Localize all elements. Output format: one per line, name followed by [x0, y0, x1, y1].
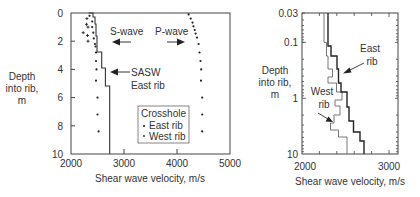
sasw-label-line1: SASW	[131, 67, 161, 78]
left-ytick-0: 0	[57, 8, 63, 19]
left-xtick-4000: 4000	[166, 158, 189, 169]
left-xlabel: Shear wave velocity, m/s	[95, 173, 205, 184]
sasw-label-line2: East rib	[131, 80, 165, 91]
left-ylabel-line2: into rib,	[6, 83, 39, 94]
left-ylabel-line3: m	[18, 95, 26, 106]
east-rib-line	[328, 13, 364, 154]
right-ylabel-line1: Depth	[262, 65, 289, 76]
p-wave-arrow-icon	[167, 39, 185, 46]
s-wave-label: S-wave	[110, 26, 144, 37]
west-rib-arrow-icon	[318, 113, 333, 122]
right-xtick-2000: 2000	[294, 161, 317, 172]
right-ylabel-line3: m	[271, 89, 279, 100]
left-x-ticks	[124, 149, 177, 154]
right-xlabel: Shear wave velocity, m/s	[295, 176, 405, 187]
right-ytick-10: 10	[287, 149, 299, 160]
p-wave-east-rib-points	[188, 13, 204, 132]
east-rib-label-line1: East	[360, 43, 380, 54]
west-rib-label-line1: West	[311, 86, 334, 97]
legend-west-label: West rib	[149, 131, 186, 142]
sasw-arrow-icon	[110, 69, 130, 76]
right-x-ticks	[319, 13, 389, 154]
right-y-ticks	[302, 13, 398, 152]
right-ytick-1: 1	[292, 93, 298, 104]
left-xtick-5000: 5000	[219, 158, 242, 169]
left-y-ticks	[71, 41, 75, 126]
west-rib-label-line2: rib	[318, 99, 330, 110]
left-ytick-2: 2	[57, 36, 63, 47]
legend-west-marker-icon	[143, 135, 145, 137]
right-ylabel-line2: into rib,	[259, 77, 292, 88]
right-xtick-3000: 3000	[378, 161, 401, 172]
right-plot-frame	[302, 13, 398, 154]
s-wave-arrow-icon	[112, 39, 131, 46]
left-ylabel-line1: Depth	[9, 71, 36, 82]
s-wave-west-rib-points	[82, 17, 90, 43]
p-wave-label: P-wave	[155, 26, 189, 37]
s-wave-east-rib-points	[88, 15, 99, 133]
right-chart: Depth into rib, m	[259, 8, 405, 187]
sasw-east-rib-line	[89, 13, 110, 154]
right-ytick-0.03: 0.03	[279, 8, 299, 19]
left-xtick-3000: 3000	[113, 158, 136, 169]
left-legend: Crosshole East rib West rib	[138, 106, 189, 143]
left-ytick-8: 8	[57, 121, 63, 132]
legend-east-marker-icon	[143, 125, 145, 127]
east-rib-arrow-icon	[343, 63, 364, 74]
legend-east-label: East rib	[149, 120, 183, 131]
left-xtick-2000: 2000	[60, 158, 83, 169]
figure: Depth into rib, m 0 2 4 6 8 10 2000 3000…	[0, 0, 420, 197]
left-chart: Depth into rib, m 0 2 4 6 8 10 2000 3000…	[6, 8, 242, 184]
left-ytick-4: 4	[57, 64, 63, 75]
left-ytick-6: 6	[57, 92, 63, 103]
east-rib-label-line2: rib	[366, 56, 378, 67]
legend-title: Crosshole	[141, 108, 186, 119]
right-ytick-0.1: 0.1	[284, 37, 298, 48]
